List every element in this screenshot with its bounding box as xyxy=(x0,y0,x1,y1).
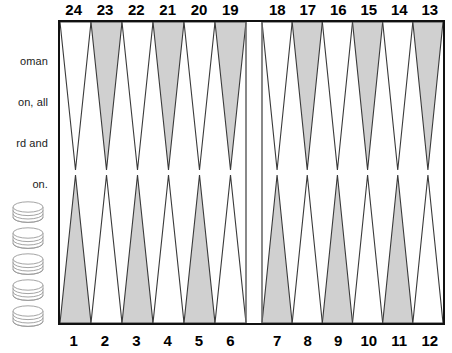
point-23[interactable] xyxy=(91,22,122,170)
point-number-16: 16 xyxy=(323,2,354,17)
points-canvas xyxy=(60,22,443,323)
point-9[interactable] xyxy=(322,175,352,323)
point-number-23: 23 xyxy=(89,2,120,17)
point-14[interactable] xyxy=(383,22,413,170)
point-3[interactable] xyxy=(122,175,153,323)
backgammon-diagram: oman on, all rd and on. 242322212019 181… xyxy=(0,0,452,353)
point-numbers-top-right: 181716151413 xyxy=(262,0,445,18)
checker-stack[interactable] xyxy=(8,278,48,300)
point-number-2: 2 xyxy=(89,333,120,348)
point-number-21: 21 xyxy=(152,2,183,17)
caption-text: oman on, all rd and on. xyxy=(0,28,48,218)
point-12[interactable] xyxy=(413,175,443,323)
point-5[interactable] xyxy=(184,175,215,323)
point-15[interactable] xyxy=(353,22,383,170)
checker-stack[interactable] xyxy=(8,226,48,248)
point-10[interactable] xyxy=(353,175,383,323)
point-number-22: 22 xyxy=(121,2,152,17)
point-number-4: 4 xyxy=(152,333,183,348)
point-number-15: 15 xyxy=(354,2,385,17)
checker-stack[interactable] xyxy=(8,304,48,326)
point-numbers-bottom-left: 123456 xyxy=(58,331,246,349)
board-surface xyxy=(60,22,443,323)
checker-stack-glyph xyxy=(8,252,48,276)
point-13[interactable] xyxy=(413,22,443,170)
point-number-18: 18 xyxy=(262,2,293,17)
caption-line-4: on. xyxy=(0,178,48,192)
point-number-24: 24 xyxy=(58,2,89,17)
point-number-12: 12 xyxy=(415,333,446,348)
point-numbers-bottom-right: 789101112 xyxy=(262,331,445,349)
point-18[interactable] xyxy=(262,22,292,170)
board-frame xyxy=(58,20,445,325)
point-number-20: 20 xyxy=(183,2,214,17)
point-number-10: 10 xyxy=(354,333,385,348)
point-numbers-top-left: 242322212019 xyxy=(58,0,246,18)
point-number-11: 11 xyxy=(384,333,415,348)
point-number-1: 1 xyxy=(58,333,89,348)
point-7[interactable] xyxy=(262,175,292,323)
checker-stack[interactable] xyxy=(8,200,48,222)
point-16[interactable] xyxy=(322,22,352,170)
checker-tray xyxy=(8,200,50,328)
point-number-3: 3 xyxy=(121,333,152,348)
point-20[interactable] xyxy=(184,22,215,170)
caption-line-1: oman xyxy=(0,55,48,69)
caption-line-2: on, all xyxy=(0,96,48,110)
point-2[interactable] xyxy=(91,175,122,323)
points-bottom-row xyxy=(60,175,443,323)
point-11[interactable] xyxy=(383,175,413,323)
point-number-7: 7 xyxy=(262,333,293,348)
checker-stack[interactable] xyxy=(8,252,48,274)
point-21[interactable] xyxy=(153,22,184,170)
checker-stack-glyph xyxy=(8,200,48,224)
point-number-9: 9 xyxy=(323,333,354,348)
point-number-6: 6 xyxy=(215,333,246,348)
point-19[interactable] xyxy=(215,22,246,170)
point-number-8: 8 xyxy=(293,333,324,348)
caption-line-3: rd and xyxy=(0,137,48,151)
point-number-17: 17 xyxy=(293,2,324,17)
point-number-5: 5 xyxy=(183,333,214,348)
point-17[interactable] xyxy=(292,22,322,170)
point-1[interactable] xyxy=(60,175,91,323)
points-top-row xyxy=(60,22,443,170)
checker-stack-glyph xyxy=(8,304,48,328)
point-6[interactable] xyxy=(215,175,246,323)
point-number-14: 14 xyxy=(384,2,415,17)
checker-stack-glyph xyxy=(8,226,48,250)
center-bar xyxy=(246,22,262,323)
point-24[interactable] xyxy=(60,22,91,170)
point-8[interactable] xyxy=(292,175,322,323)
point-number-19: 19 xyxy=(215,2,246,17)
point-22[interactable] xyxy=(122,22,153,170)
point-4[interactable] xyxy=(153,175,184,323)
point-number-13: 13 xyxy=(415,2,446,17)
checker-stack-glyph xyxy=(8,278,48,302)
